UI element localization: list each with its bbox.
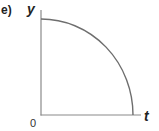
plot-area — [0, 0, 159, 131]
curve — [41, 19, 133, 115]
